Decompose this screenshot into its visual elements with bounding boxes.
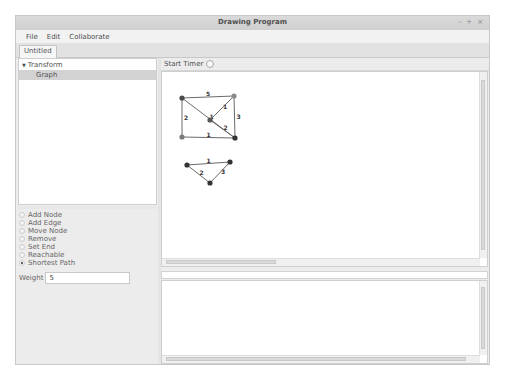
radio-button[interactable] <box>19 236 25 242</box>
radio-button[interactable] <box>19 252 25 258</box>
canvas-horizontal-scrollbar[interactable] <box>162 258 480 266</box>
scroll-thumb[interactable] <box>166 260 276 264</box>
edge-weight-label: 2 <box>184 114 188 121</box>
radio-button-checked[interactable] <box>19 260 25 266</box>
radio-button[interactable] <box>19 220 25 226</box>
tree-node-label: Transform <box>28 61 63 69</box>
minimize-button[interactable]: – <box>458 18 462 27</box>
edge-weight-label: 1 <box>207 157 211 164</box>
menu-bar: File Edit Collaborate <box>16 30 489 44</box>
output-vertical-scrollbar[interactable] <box>479 281 487 355</box>
graph-node[interactable] <box>184 162 189 167</box>
graph-node[interactable] <box>207 180 212 185</box>
output-horizontal-scrollbar[interactable] <box>162 355 480 363</box>
radio-label: Remove <box>28 235 56 243</box>
transform-tree: ▼Transform Graph <box>18 58 157 205</box>
weight-row: Weight 5 <box>19 272 130 284</box>
tree-node-label: Graph <box>36 71 57 79</box>
window-controls: – + × <box>458 18 483 27</box>
weight-label: Weight <box>19 274 43 282</box>
title-bar[interactable]: Drawing Program – + × <box>16 16 489 31</box>
app-window: Drawing Program – + × File Edit Collabor… <box>15 15 490 365</box>
menu-edit[interactable]: Edit <box>47 33 61 41</box>
radio-reachable[interactable]: Reachable <box>19 251 64 259</box>
radio-button[interactable] <box>19 228 25 234</box>
radio-add-edge[interactable]: Add Edge <box>19 219 61 227</box>
edge-weight-label: 2 <box>200 169 204 176</box>
graph-canvas[interactable]: 5121321123 <box>161 71 488 267</box>
expand-arrow-icon[interactable]: ▼ <box>22 62 26 68</box>
graph-node[interactable] <box>227 159 232 164</box>
scroll-thumb[interactable] <box>481 287 485 349</box>
tree-node-graph[interactable]: Graph <box>19 70 156 80</box>
graph-edge[interactable] <box>210 96 234 120</box>
timer-label: Start Timer <box>164 60 203 68</box>
graph-node[interactable] <box>179 134 184 139</box>
edge-weight-label: 5 <box>206 90 210 97</box>
timer-bar: Start Timer <box>161 58 489 71</box>
document-tab-bar: Untitled <box>16 43 489 58</box>
output-text-area[interactable] <box>161 280 488 364</box>
radio-label: Shortest Path <box>28 259 75 267</box>
graph-node[interactable] <box>231 93 236 98</box>
radio-label: Reachable <box>28 251 64 259</box>
radio-label: Add Edge <box>28 219 61 227</box>
radio-shortest-path[interactable]: Shortest Path <box>19 259 75 267</box>
graph-edge[interactable] <box>234 96 235 138</box>
left-panel: ▼Transform Graph Add Node Add Edge Move … <box>18 58 157 364</box>
screen-caption <box>0 0 505 10</box>
timer-toggle[interactable] <box>206 60 214 68</box>
edge-weight-label: 1 <box>207 131 211 138</box>
canvas-vertical-scrollbar[interactable] <box>479 72 487 258</box>
close-button[interactable]: × <box>477 18 483 27</box>
menu-collaborate[interactable]: Collaborate <box>69 33 109 41</box>
window-title: Drawing Program <box>16 18 489 26</box>
tool-options: Add Node Add Edge Move Node Remove Set E… <box>18 209 157 364</box>
scroll-thumb[interactable] <box>481 80 485 250</box>
scroll-thumb[interactable] <box>166 357 466 361</box>
graph-edge[interactable] <box>187 165 210 183</box>
radio-label: Move Node <box>28 227 67 235</box>
radio-label: Add Node <box>28 211 62 219</box>
radio-set-end[interactable]: Set End <box>19 243 55 251</box>
radio-move-node[interactable]: Move Node <box>19 227 67 235</box>
radio-label: Set End <box>28 243 55 251</box>
edge-weight-label: 1 <box>223 103 227 110</box>
radio-button[interactable] <box>19 212 25 218</box>
radio-button[interactable] <box>19 244 25 250</box>
maximize-button[interactable]: + <box>466 18 472 27</box>
tab-untitled[interactable]: Untitled <box>19 45 57 58</box>
weight-input[interactable]: 5 <box>45 272 130 284</box>
radio-add-node[interactable]: Add Node <box>19 211 62 219</box>
menu-file[interactable]: File <box>26 33 38 41</box>
right-panel: Start Timer 5121321123 <box>161 58 489 364</box>
graph-node[interactable] <box>179 95 184 100</box>
tree-node-transform[interactable]: ▼Transform <box>19 60 156 70</box>
status-strip <box>161 271 488 279</box>
graph-node[interactable] <box>207 117 212 122</box>
edge-weight-label: 2 <box>224 124 228 131</box>
graph-edge[interactable] <box>210 120 235 138</box>
graph-drawing[interactable]: 5121321123 <box>162 72 480 258</box>
edge-weight-label: 3 <box>237 113 241 120</box>
graph-node[interactable] <box>232 135 237 140</box>
graph-edge[interactable] <box>210 162 230 183</box>
radio-remove[interactable]: Remove <box>19 235 56 243</box>
edge-weight-label: 3 <box>221 168 225 175</box>
